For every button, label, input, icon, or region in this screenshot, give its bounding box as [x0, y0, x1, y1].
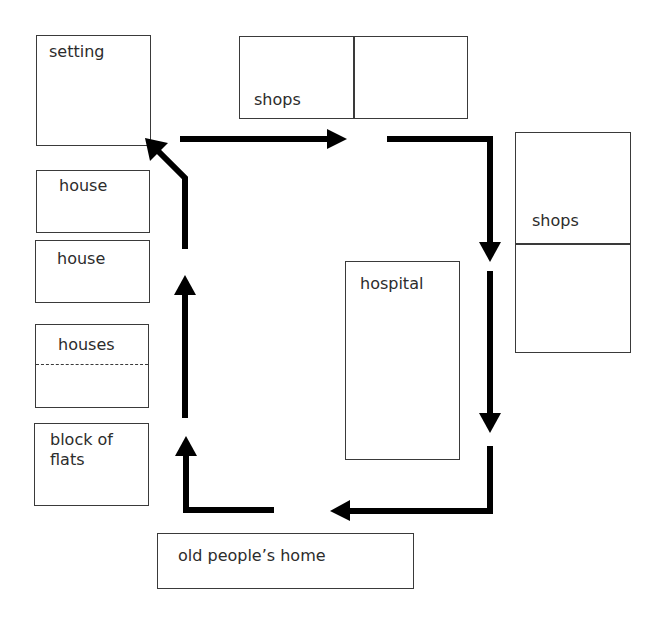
arrow-up-icon: [174, 275, 196, 418]
arrow-up-icon: [175, 436, 274, 510]
arrow-down-icon: [387, 139, 501, 262]
arrow-right-icon: [180, 129, 347, 149]
arrow-down-icon: [479, 271, 501, 433]
route-arrows: [0, 0, 661, 623]
arrow-left-icon: [330, 446, 490, 521]
arrow-up-left-icon: [145, 138, 185, 249]
